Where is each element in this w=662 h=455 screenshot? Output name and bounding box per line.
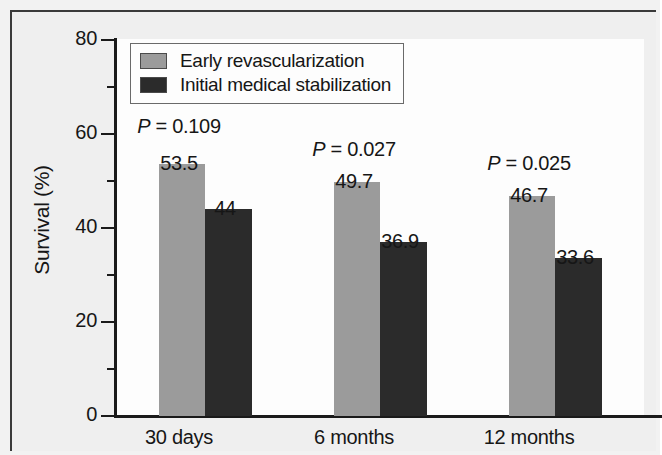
bar-value-early-revascularization-12-months: 46.7 [479,184,579,207]
x-tick-label-12-months: 12 months [459,426,599,449]
bar-value-initial-medical-stabilization-30-days: 44 [175,197,275,220]
y-tick-label-80: 80 [45,27,97,50]
p-value-6-months: P = 0.027 [299,138,409,161]
y-tick-70 [107,86,115,88]
p-value-6-months-text: = 0.027 [325,138,395,160]
bar-value-early-revascularization-6-months: 49.7 [304,170,404,193]
bar-early-revascularization-12-months [509,196,555,416]
y-tick-40 [101,227,115,229]
bar-value-early-revascularization-30-days: 53.5 [129,152,229,175]
bar-initial-medical-stabilization-30-days [205,209,252,416]
figure-frame: 80 60 40 20 0 Survival (%) Early revascu… [10,10,656,451]
x-tick-label-30-days: 30 days [109,426,249,449]
p-value-12-months-text: = 0.025 [500,152,570,174]
p-value-30-days-symbol: P [137,115,150,137]
y-tick-20 [101,321,115,323]
bar-value-initial-medical-stabilization-12-months: 33.6 [525,246,625,269]
y-tick-label-0: 0 [45,403,97,426]
p-value-30-days: P = 0.109 [124,115,234,138]
bar-initial-medical-stabilization-6-months [380,242,427,416]
y-tick-0 [101,415,115,417]
y-tick-60 [101,133,115,135]
bar-initial-medical-stabilization-12-months [555,258,602,416]
y-tick-10 [107,368,115,370]
p-value-30-days-text: = 0.109 [150,115,220,137]
p-value-12-months-symbol: P [487,152,500,174]
p-value-12-months: P = 0.025 [474,152,584,175]
bar-value-initial-medical-stabilization-6-months: 36.9 [350,230,450,253]
bar-early-revascularization-6-months [334,182,380,416]
y-axis-title: Survival (%) [30,120,54,320]
y-tick-30 [107,274,115,276]
y-tick-50 [107,180,115,182]
bars-layer [115,39,644,416]
p-value-6-months-symbol: P [312,138,325,160]
x-tick-label-6-months: 6 months [284,426,424,449]
y-tick-80 [101,39,115,41]
